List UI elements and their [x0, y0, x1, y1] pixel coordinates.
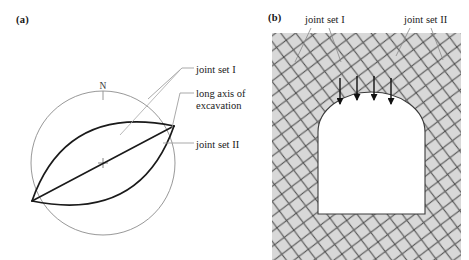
callout-b-joint-set-2: joint set II: [404, 14, 447, 26]
leader-long-axis: [172, 93, 194, 128]
rock-mass: [272, 33, 461, 260]
tunnel-outline: [318, 92, 425, 214]
figure-container: (a) (b): [0, 0, 469, 260]
leader-joint-set-1: [148, 68, 194, 99]
stereonet-diagram: [31, 68, 194, 235]
north-label: N: [100, 81, 107, 91]
callout-joint-set-1: joint set I: [196, 64, 236, 76]
long-axis-chord: [32, 126, 174, 201]
callout-b-joint-set-1: joint set I: [305, 14, 345, 26]
callout-long-axis-of-excavation: long axis of excavation: [196, 88, 246, 111]
callout-joint-set-2: joint set II: [196, 139, 239, 151]
tunnel-cross-section-diagram: [272, 28, 461, 260]
figure-graphics: N: [0, 0, 469, 260]
